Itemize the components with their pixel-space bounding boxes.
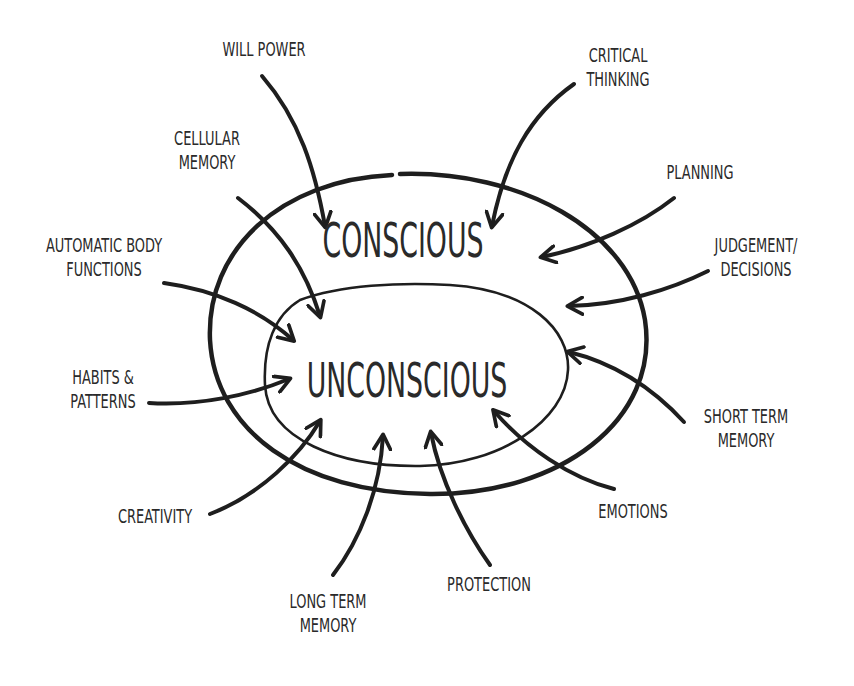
- conscious-label: CONSCIOUS: [322, 212, 483, 269]
- label-habits-patterns: HABITS & PATTERNS: [70, 366, 135, 413]
- label-critical-thinking: CRITICAL THINKING: [586, 44, 649, 91]
- arrow-short-term-memory: [569, 352, 684, 422]
- arrow-protection: [431, 433, 490, 565]
- label-will-power: WILL POWER: [222, 38, 305, 62]
- label-creativity: CREATIVITY: [118, 505, 192, 529]
- label-protection: PROTECTION: [447, 573, 531, 597]
- label-long-term-memory: LONG TERM MEMORY: [289, 590, 366, 637]
- label-short-term-memory: SHORT TERM MEMORY: [704, 405, 788, 452]
- arrow-will-power: [262, 76, 325, 226]
- label-cellular-memory: CELLULAR MEMORY: [174, 127, 240, 174]
- arrow-critical-thinking: [492, 84, 574, 226]
- diagram-canvas: [0, 0, 854, 686]
- arrow-emotions: [494, 411, 614, 489]
- label-automatic-body-functions: AUTOMATIC BODY FUNCTIONS: [46, 234, 162, 281]
- label-planning: PLANNING: [666, 161, 733, 185]
- label-judgement-decisions: JUDGEMENT/ DECISIONS: [715, 234, 798, 281]
- unconscious-label: UNCONSCIOUS: [307, 352, 508, 409]
- label-emotions: EMOTIONS: [598, 500, 667, 524]
